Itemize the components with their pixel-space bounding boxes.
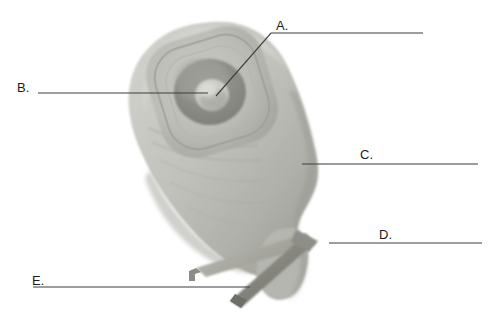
label-e: E. <box>32 274 45 287</box>
figure-canvas: A. B. C. D. E. <box>0 0 499 332</box>
label-c: C. <box>360 148 373 161</box>
label-b: B. <box>17 81 30 94</box>
pouch-illustration <box>0 0 499 332</box>
label-d: D. <box>379 228 392 241</box>
label-a: A. <box>276 19 289 32</box>
stoma-center-highlight <box>199 83 217 97</box>
